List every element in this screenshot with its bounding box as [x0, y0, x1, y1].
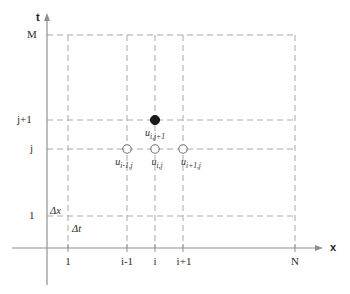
x-tick-label-N: N	[291, 256, 299, 267]
figure-canvas: t x M j+1 j 1 1 i-1 i i+1 N Δx Δt ui,j+1…	[0, 0, 350, 294]
delta-x-label: Δx	[50, 206, 61, 217]
node-label-sub-i-jplus1: i,j+1	[150, 132, 165, 141]
node-label-sub-i-j: i,j	[156, 161, 162, 170]
node-label-iminus1-j: ui-1,j	[115, 157, 132, 170]
x-tick-label-1: 1	[65, 256, 71, 267]
node-label-i-j: ui,j	[151, 157, 162, 170]
x-axis-arrowhead	[315, 245, 323, 251]
node-label-iplus1-j: ui+1,j	[181, 157, 201, 170]
node-label-sub-iplus1-j: i+1,j	[186, 161, 201, 170]
x-tick-label-iminus1: i-1	[121, 256, 133, 267]
y-tick-label-1: 1	[29, 210, 35, 221]
node-label-sub-iminus1-j: i-1,j	[120, 161, 132, 170]
x-tick-label-i: i	[153, 256, 156, 267]
t-axis-label: t	[36, 12, 40, 23]
node-marker-i-jplus1	[150, 115, 159, 124]
x-axis-label: x	[330, 242, 336, 253]
node-marker-i-j	[151, 145, 159, 153]
delta-t-label: Δt	[72, 224, 81, 235]
y-tick-label-jplus1: j+1	[17, 114, 32, 125]
stencil-grid-svg	[0, 0, 350, 294]
axes-group	[12, 18, 318, 285]
node-label-i-jplus1: ui,j+1	[145, 128, 165, 141]
y-tick-label-j: j	[30, 143, 33, 154]
node-marker-iminus1-j	[123, 145, 131, 153]
y-tick-label-M: M	[27, 29, 37, 40]
horizontal-gridlines	[47, 35, 295, 216]
t-axis-arrowhead	[44, 13, 50, 21]
node-marker-iplus1-j	[179, 145, 187, 153]
x-tick-label-iplus1: i+1	[177, 256, 192, 267]
